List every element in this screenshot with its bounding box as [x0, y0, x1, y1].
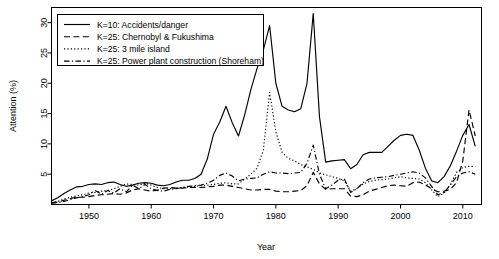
x-axis-title: Year — [257, 242, 275, 252]
legend-label: K=25: 3 mile island — [97, 44, 170, 54]
x-tick-label: 1950 — [79, 211, 99, 221]
x-tick-label: 1970 — [204, 211, 224, 221]
y-tick-label: 5 — [39, 172, 49, 177]
x-tick-label: 1990 — [328, 211, 348, 221]
chart-legend: K=10: Accidents/dangerK=25: Chernobyl & … — [58, 15, 265, 67]
y-tick-label: 30 — [39, 18, 49, 28]
y-axis-title: Attention (%) — [8, 80, 18, 132]
x-tick-label: 1980 — [266, 211, 286, 221]
y-tick-label: 10 — [39, 139, 49, 149]
chart-container: 51015202530 1950196019701980199020002010… — [0, 0, 499, 259]
legend-label: K=10: Accidents/danger — [97, 20, 188, 30]
y-tick-label: 15 — [39, 109, 49, 119]
x-tick-label: 2000 — [390, 211, 410, 221]
legend-label: K=25: Power plant construction (Shoreham… — [97, 56, 264, 66]
x-tick-label: 2010 — [453, 211, 473, 221]
attention-over-time-line-chart: 51015202530 1950196019701980199020002010… — [0, 0, 499, 259]
legend-label: K=25: Chernobyl & Fukushima — [97, 32, 214, 42]
y-tick-label: 20 — [39, 78, 49, 88]
y-tick-label: 25 — [39, 48, 49, 58]
x-tick-label: 1960 — [141, 211, 161, 221]
